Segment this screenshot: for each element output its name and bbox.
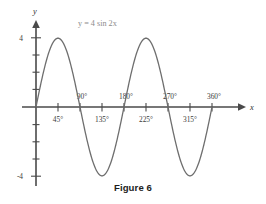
figure-container: x y 4 -4 bbox=[0, 0, 266, 204]
figure-caption: Figure 6 bbox=[0, 182, 266, 193]
x-tick-label-225: 225° bbox=[139, 115, 153, 124]
sine-graph: x y 4 -4 bbox=[0, 0, 266, 204]
x-tick-label-360: 360° bbox=[207, 92, 221, 101]
x-tick-label-135: 135° bbox=[95, 115, 109, 124]
y-axis-label: y bbox=[32, 7, 37, 16]
y-tick-label-minus-4: -4 bbox=[17, 172, 23, 181]
y-tick-label-4: 4 bbox=[19, 34, 23, 43]
x-tick-label-315: 315° bbox=[183, 115, 197, 124]
equation-annotation: y = 4 sin 2x bbox=[78, 19, 117, 28]
y-axis-arrow-icon bbox=[32, 20, 40, 28]
x-axis-arrow-icon bbox=[238, 103, 246, 111]
x-axis: x bbox=[22, 103, 254, 112]
x-axis-label: x bbox=[249, 103, 254, 112]
x-tick-label-45: 45° bbox=[53, 115, 63, 124]
